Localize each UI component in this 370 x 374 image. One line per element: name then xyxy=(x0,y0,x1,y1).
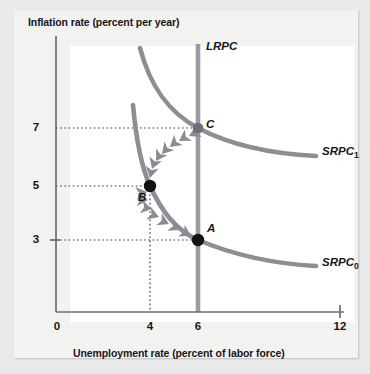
srpc1-label-text: SRPC xyxy=(322,145,354,157)
srpc0-label-subscript: 0 xyxy=(354,261,359,271)
x-tick-label-4: 4 xyxy=(141,320,159,332)
srpc0-curve xyxy=(133,105,316,266)
srpc0-label-text: SRPC xyxy=(322,256,354,268)
data-point-c xyxy=(193,123,204,134)
x-tick-label-12: 12 xyxy=(331,320,349,332)
point-label-c: C xyxy=(206,118,214,130)
srpc1-curve xyxy=(140,48,316,156)
y-tick-label-5: 5 xyxy=(28,179,44,191)
y-axis-title: Inflation rate (percent per year) xyxy=(28,16,179,28)
y-tick-label-7: 7 xyxy=(28,121,44,133)
srpc0-label: SRPC0 xyxy=(322,256,359,271)
srpc1-label: SRPC1 xyxy=(322,145,359,160)
x-tick-label-0: 0 xyxy=(48,320,66,332)
x-axis-title: Unemployment rate (percent of labor forc… xyxy=(73,347,285,359)
arrow-path-b-to-c xyxy=(144,125,202,179)
phillips-curve-figure: Inflation rate (percent per year) Unempl… xyxy=(0,0,370,374)
guide-lines xyxy=(50,128,198,312)
data-point-a xyxy=(192,234,204,246)
x-tick-label-6: 6 xyxy=(189,320,207,332)
y-tick-label-3: 3 xyxy=(28,233,44,245)
point-label-a: A xyxy=(207,222,215,234)
chart-canvas xyxy=(0,0,370,374)
point-label-b: B xyxy=(138,191,146,203)
lrpc-label: LRPC xyxy=(206,40,237,52)
srpc1-label-subscript: 1 xyxy=(354,150,359,160)
